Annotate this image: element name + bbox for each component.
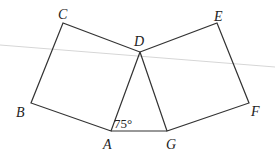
label-g: G bbox=[166, 137, 176, 152]
label-f: F bbox=[250, 104, 260, 119]
diagram-svg: C B A D E F G 75° bbox=[0, 0, 275, 163]
square-defg bbox=[140, 23, 249, 131]
angle-label: 75° bbox=[114, 116, 132, 131]
square-abcd bbox=[31, 23, 140, 131]
geometry-diagram: C B A D E F G 75° bbox=[0, 0, 275, 163]
label-e: E bbox=[213, 9, 223, 24]
label-c: C bbox=[58, 7, 68, 22]
label-b: B bbox=[16, 105, 25, 120]
label-a: A bbox=[102, 137, 112, 152]
label-d: D bbox=[133, 34, 144, 49]
